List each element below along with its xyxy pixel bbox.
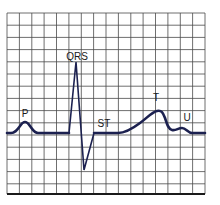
p-wave-label: P: [22, 108, 29, 119]
ecg-trace-baseline-p-wave: [7, 122, 69, 133]
t-wave-label: T: [153, 92, 159, 103]
qrs-complex-label: QRS: [66, 51, 88, 62]
st-segment-label: ST: [98, 118, 111, 129]
ecg-diagram: P QRS ST T U: [0, 0, 220, 205]
u-wave-label: U: [183, 112, 190, 123]
grid: [7, 13, 205, 194]
